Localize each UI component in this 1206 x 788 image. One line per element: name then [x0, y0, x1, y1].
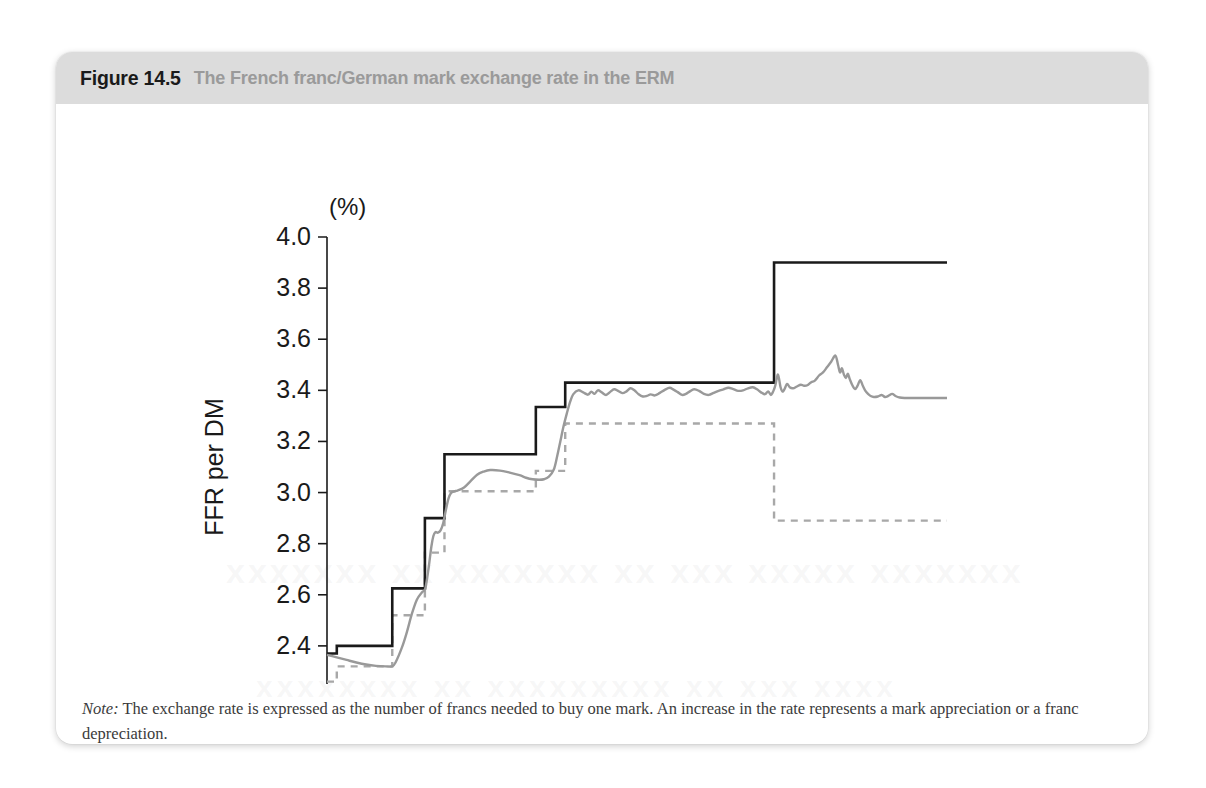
y-unit-label: (%) — [329, 193, 366, 220]
exchange-rate-chart: 2.22.42.62.83.03.23.43.63.84.0 197919811… — [56, 104, 1148, 684]
y-tick-label: 2.2 — [276, 682, 311, 684]
figure-card: Figure 14.5 The French franc/German mark… — [56, 52, 1148, 744]
series-path-actual-exchange-rate — [327, 356, 947, 667]
chart-y-tick-labels: 2.22.42.62.83.03.23.43.63.84.0 — [276, 222, 311, 684]
figure-number: Figure 14.5 — [80, 67, 181, 90]
y-tick-label: 2.6 — [276, 580, 311, 608]
series-path-lower-band-limit — [327, 424, 947, 682]
y-tick-label: 2.8 — [276, 529, 311, 557]
y-tick-label: 2.4 — [276, 631, 311, 659]
note-text: The exchange rate is expressed as the nu… — [82, 699, 1079, 743]
note-label: Note: — [82, 699, 119, 718]
figure-note: Note: The exchange rate is expressed as … — [82, 696, 1122, 744]
figure-header: Figure 14.5 The French franc/German mark… — [56, 52, 1148, 104]
page-root: Figure 14.5 The French franc/German mark… — [0, 0, 1206, 788]
y-tick-label: 3.2 — [276, 426, 311, 454]
y-tick-label: 3.4 — [276, 375, 311, 403]
figure-title: The French franc/German mark exchange ra… — [194, 68, 675, 89]
y-tick-label: 3.8 — [276, 273, 311, 301]
y-axis-title: FFR per DM — [200, 398, 228, 536]
chart-series-group — [327, 263, 947, 682]
y-tick-label: 4.0 — [276, 222, 311, 250]
y-tick-label: 3.0 — [276, 478, 311, 506]
chart-axes — [318, 237, 947, 684]
chart-plot-area: 2.22.42.62.83.03.23.43.63.84.0 197919811… — [56, 104, 1148, 684]
y-tick-label: 3.6 — [276, 324, 311, 352]
